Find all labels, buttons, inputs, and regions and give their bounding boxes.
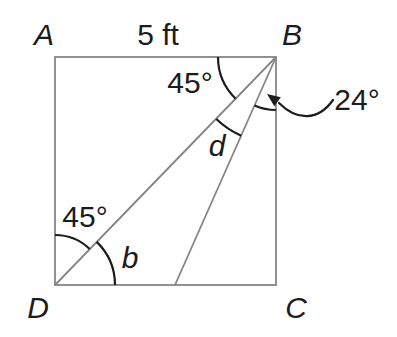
- vertex-label-d: D: [27, 291, 49, 324]
- vertex-label-c: C: [285, 291, 307, 324]
- angle-arc-adb: [55, 235, 90, 249]
- geometry-figure: A 5 ft B 45° d 24° 45° b D C: [0, 0, 397, 337]
- angle-arc-ebc: [255, 106, 276, 111]
- angle-label-adb: 45°: [62, 200, 107, 233]
- vertex-label-b: B: [282, 18, 302, 51]
- diagonal-db: [55, 57, 276, 285]
- angle-arc-bdc: [97, 242, 115, 285]
- angle-label-b: b: [122, 241, 139, 274]
- vertex-label-a: A: [32, 18, 54, 51]
- geometry-canvas: A 5 ft B 45° d 24° 45° b D C: [0, 0, 397, 337]
- angle-arc-abd: [218, 57, 236, 99]
- side-length-label: 5 ft: [137, 18, 179, 51]
- angle-label-d: d: [209, 129, 227, 162]
- angle-label-24: 24°: [334, 83, 379, 116]
- pointer-arrowhead-icon: [267, 94, 281, 106]
- pointer-curve: [279, 100, 333, 116]
- angle-label-abd: 45°: [167, 66, 212, 99]
